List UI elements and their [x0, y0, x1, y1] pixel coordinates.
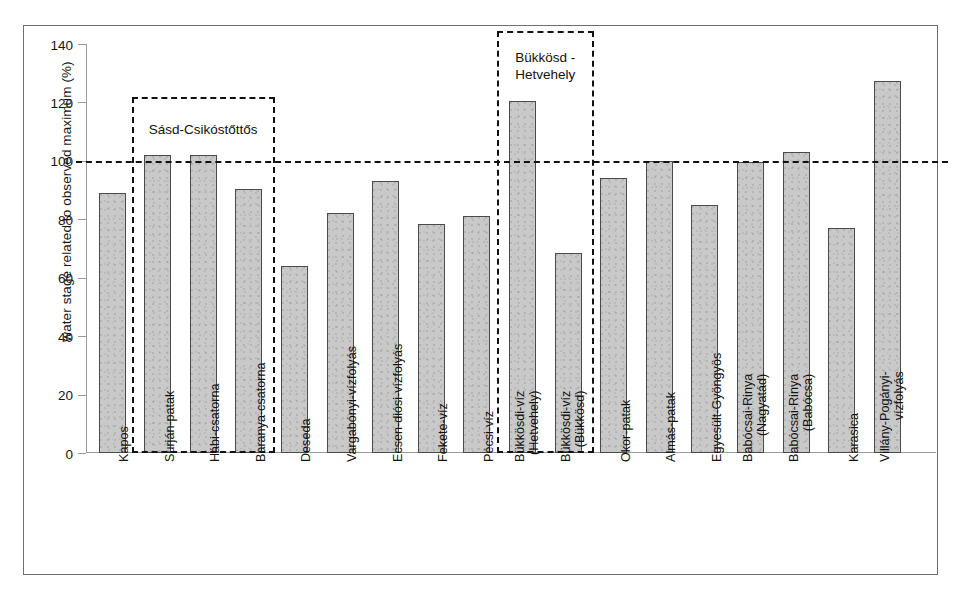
x-axis-label-line: Deseda: [299, 419, 313, 462]
y-tick-40: 40: [78, 336, 86, 337]
x-axis-label-line: Surján-patak: [163, 391, 177, 462]
x-axis-label: Bükkösdi-víz(Bükkösd): [559, 391, 587, 462]
x-axis-label-line: (Babócsa): [801, 374, 815, 462]
x-axis-label: Almás-patak: [664, 392, 678, 462]
x-axis-label-line: (Nagyatád): [755, 374, 769, 462]
x-axis-label: Kapos: [117, 426, 131, 462]
x-axis-label-line: Okor-patak: [619, 400, 633, 462]
x-axis-label: Babócsai-Rinya(Babócsa): [787, 374, 815, 462]
x-axis-label-line: Baranya-csatorna: [254, 363, 268, 462]
annotation-label-bukkosd-hetvehely: Bükkösd - Hetvehely: [499, 49, 592, 83]
y-tick-label-60: 60: [58, 271, 73, 286]
y-tick-0: 0: [78, 453, 86, 454]
x-axis-label-line: Villány-Pogányi-: [878, 371, 892, 462]
x-axis-label: Bükkösdi-víz(Hetvehely): [513, 391, 541, 462]
x-axis-label-line: (Hetvehely): [527, 391, 541, 462]
x-axis-label: Fekete-víz: [436, 403, 450, 462]
y-tick-20: 20: [78, 395, 86, 396]
x-axis-label: Vargabónyi-vízfolyás: [345, 346, 359, 462]
x-axis-label-line: Egyesült-Gyöngyös: [710, 353, 724, 462]
x-axis-label: Ecsen-diósi-vízfolyás: [391, 344, 405, 462]
x-axis-labels: KaposSurján-patakHábi-csatornaBaranya-cs…: [86, 456, 936, 576]
y-tick-label-20: 20: [58, 388, 73, 403]
x-axis-label-line: Babócsai-Rinya: [741, 374, 755, 462]
y-tick-label-80: 80: [58, 212, 73, 227]
x-axis-label-line: Babócsai-Rinya: [787, 374, 801, 462]
x-axis-label-line: Kapos: [117, 426, 131, 462]
x-axis-label-line: Ecsen-diósi-vízfolyás: [391, 344, 405, 462]
x-axis-label-line: Fekete-víz: [436, 403, 450, 462]
y-tick-120: 120: [78, 102, 86, 103]
x-axis-label: Okor-patak: [619, 400, 633, 462]
x-axis-label: Villány-Pogányi-vízfolyás: [878, 371, 906, 462]
y-tick-label-0: 0: [65, 446, 73, 461]
x-axis-label: Egyesült-Gyöngyös: [710, 353, 724, 462]
y-tick-140: 140: [78, 44, 86, 45]
y-tick-60: 60: [78, 278, 86, 279]
x-axis-label-line: Bükkösdi-víz: [513, 391, 527, 462]
x-axis-label: Deseda: [299, 419, 313, 462]
y-tick-label-120: 120: [50, 95, 73, 110]
x-axis-label-line: Vargabónyi-vízfolyás: [345, 346, 359, 462]
x-axis-label-line: Hábi-csatorna: [208, 384, 222, 462]
x-axis-label-line: vízfolyás: [892, 371, 906, 462]
y-axis-title: water stage related to observed maximum …: [59, 42, 74, 362]
x-axis-label: Karasica: [847, 413, 861, 462]
y-tick-label-100: 100: [50, 154, 73, 169]
figure-frame: water stage related to observed maximum …: [23, 25, 938, 575]
annotation-label-sasd-csikostottos: Sásd-Csikóstőttős: [134, 121, 273, 138]
x-axis-label: Hábi-csatorna: [208, 384, 222, 462]
y-tick-80: 80: [78, 219, 86, 220]
y-tick-label-40: 40: [58, 329, 73, 344]
x-axis-label: Baranya-csatorna: [254, 363, 268, 462]
x-axis-label: Pécsi-víz: [482, 411, 496, 462]
x-axis-label-line: (Bükkösd): [573, 391, 587, 462]
x-axis-label-line: Almás-patak: [664, 392, 678, 462]
y-tick-label-140: 140: [50, 37, 73, 52]
bar: [99, 193, 126, 453]
x-axis-label-line: Karasica: [847, 413, 861, 462]
x-axis-label: Babócsai-Rinya(Nagyatád): [741, 374, 769, 462]
x-axis-label-line: Pécsi-víz: [482, 411, 496, 462]
y-axis-line: [86, 44, 87, 453]
x-axis-label-line: Bükkösdi-víz: [559, 391, 573, 462]
x-axis-label: Surján-patak: [163, 391, 177, 462]
